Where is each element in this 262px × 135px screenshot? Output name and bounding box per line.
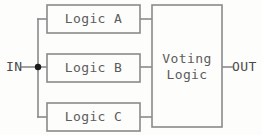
block-logic-b[interactable]: Logic B — [47, 54, 140, 82]
logic-a-label: Logic A — [65, 11, 123, 26]
output-port-label: OUT — [232, 59, 257, 74]
logic-b-label: Logic B — [65, 60, 123, 75]
voting-logic-label-line1: Voting — [162, 51, 211, 66]
block-logic-c[interactable]: Logic C — [47, 103, 140, 131]
input-port-label: IN — [6, 59, 22, 74]
redundancy-voting-diagram: Logic A Logic B Logic C Voting Logic IN … — [0, 0, 262, 135]
voting-logic-label-line2: Logic — [166, 67, 207, 82]
logic-c-label: Logic C — [65, 109, 123, 124]
block-logic-a[interactable]: Logic A — [47, 5, 140, 33]
input-fanout-node — [35, 64, 41, 70]
block-voting-logic[interactable]: Voting Logic — [152, 5, 222, 127]
diagram-canvas: Logic A Logic B Logic C Voting Logic IN … — [0, 0, 262, 135]
